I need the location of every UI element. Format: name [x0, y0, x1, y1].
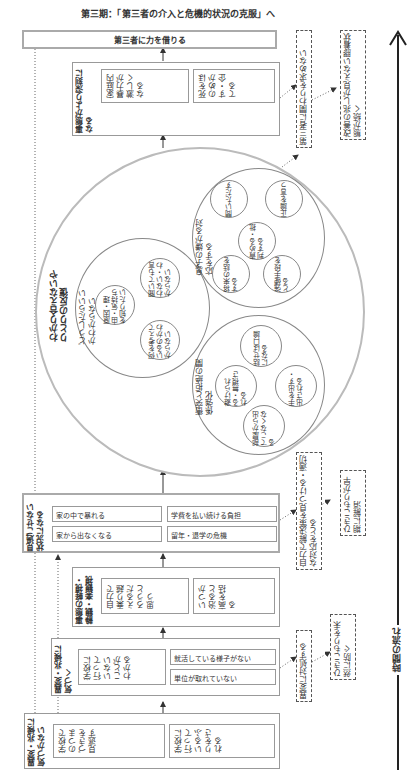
stage-not-notice: 異変・兆候に気づかない 学校でのつまづきを見逃す 学校に行っているふりをされる [24, 713, 280, 769]
cycle-bottom-item: 話せば口論になる [240, 325, 282, 367]
cycle-bottom-item: 部屋から出てこなくなる [243, 405, 285, 447]
stage-item: 留年・退学の危機 [167, 526, 277, 542]
stage-item: 単位が取れていない [170, 669, 276, 685]
stage-item: 学校でのつまづきを見逃す [53, 724, 165, 758]
stage-item: 死をほのめかす・企てる [193, 69, 275, 103]
stage-label: 事態の軽視・静観・楽観視 [75, 570, 97, 624]
stage-third-party: 第三者に力を借りる [22, 30, 277, 49]
cycle-left-item: 原因・理由・気持ちを知りたい [95, 285, 135, 325]
cycle-top-item: 強硬手段をとる [263, 255, 301, 293]
stage-item: 学費を払い続ける負担 [167, 506, 277, 522]
stage-item: いつか治ると高を括る [193, 578, 275, 614]
stage-label: 見過ごせない状況になる [26, 497, 50, 551]
stage-item: 学校に行っていないことがわかる [78, 649, 166, 685]
time-axis-label: 時間の流れ [391, 625, 405, 675]
cycle-left-item: 何を考えているのかわからない [140, 320, 180, 360]
stage-notice: 異変・兆候に気づく 学校に行っていないことがわかる 就活している様子がない 単位… [51, 638, 280, 696]
cycle-top-item: 責める・批判する [238, 222, 276, 260]
stage-item: 家から出なくなる [52, 526, 162, 542]
stage-label: 第三者に力を借りる [114, 34, 186, 45]
cycle-title: わかり合えないやりとりの反復 [48, 262, 73, 342]
note-self-solution: 自力で解決策を見つける・適切な対応をとる [296, 452, 322, 570]
stage-label: 異変・兆候に気づく [54, 641, 78, 693]
note-no-third-party: 第三者に関わりを求めない [296, 30, 312, 148]
stage-underestimate: 事態の軽視・静観・楽観視 自力で乗り越えるだろうと思う いつか治ると高を括る [72, 567, 280, 627]
stage-more-serious: 事態がより深刻になる 家庭内暴力が激しくなる 死をほのめかす・企てる [72, 62, 280, 136]
note-handle-change: 異変に対処する [296, 630, 312, 702]
cycle-left-item: 聞いても言わない・わからない [140, 258, 180, 298]
stage-item: 学校に行っているふりをされる [169, 724, 275, 758]
stage-label: 異変・兆候に気づかない [27, 716, 51, 766]
cycle-top-item: 問いただす [210, 180, 248, 218]
phase-title: 第三期：「第三者の介入と危機的状況の克服」へ [0, 0, 420, 28]
cycle-bottom-item: 手を出す・出される [275, 365, 317, 407]
stage-cannot-overlook: 見過ごせない状況になる 家の中で暴れる 学費を払い続ける負担 家から出なくなる … [22, 493, 280, 553]
note-deadlock: 改善の兆しが見えない膠着状態が続く [340, 30, 366, 140]
stage-label: 事態がより深刻になる [75, 65, 97, 133]
note-prevent-withdrawal: ひきこもりを未然に防ぐ [330, 614, 356, 680]
cycle-bottom-label: 衝突と拒絶の関係強化 [195, 355, 217, 415]
cycle-bottom-item: 避けられる・無視される [215, 365, 257, 407]
stage-item: 自力で乗り越えるだろうと思う [101, 578, 189, 614]
stage-item: 就活している様子がない [170, 649, 276, 665]
cycle-top-item: 正論を言う [265, 180, 303, 218]
stage-item: 家庭内暴力が激しくなる [101, 69, 189, 103]
note-early-resolve: ひきこもりが早期に解消 [340, 470, 366, 536]
stage-item: 家の中で暴れる [52, 506, 162, 522]
cycle-top-item: 将来の話をする [212, 255, 250, 293]
